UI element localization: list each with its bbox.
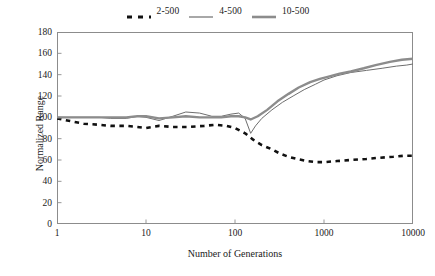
- legend-label-2: 10-500: [282, 6, 310, 16]
- x-tick-label: 1: [55, 228, 60, 238]
- legend-swatch-thick-solid: [251, 7, 277, 15]
- x-tick-label: 10: [141, 228, 151, 238]
- series-line-4-500: [57, 64, 413, 133]
- series-line-10-500: [57, 59, 413, 120]
- legend-swatch-dashed: [126, 7, 152, 15]
- legend-label-0: 2-500: [157, 6, 180, 16]
- legend-entry-1: 4-500: [188, 6, 242, 16]
- x-axis-title: Number of Generations: [57, 248, 413, 259]
- x-tick-label: 1000: [315, 228, 334, 238]
- chart-plot: [57, 32, 413, 224]
- legend-label-1: 4-500: [219, 6, 242, 16]
- legend-entry-0: 2-500: [126, 6, 180, 16]
- y-axis-title: Normalized Range: [34, 54, 45, 214]
- legend-entry-2: 10-500: [251, 6, 310, 16]
- chart-page: 2-500 4-500 10-500 020406080100120140160…: [0, 0, 435, 276]
- x-tick-label: 10000: [401, 228, 425, 238]
- y-axis-title-anchor: Normalized Range: [22, 32, 36, 224]
- x-tick-label: 100: [228, 228, 242, 238]
- x-axis-ticks: 110100100010000: [57, 228, 413, 242]
- series-line-2-500: [57, 118, 413, 162]
- legend-swatch-thin-solid: [188, 7, 214, 15]
- chart-legend: 2-500 4-500 10-500: [0, 6, 435, 16]
